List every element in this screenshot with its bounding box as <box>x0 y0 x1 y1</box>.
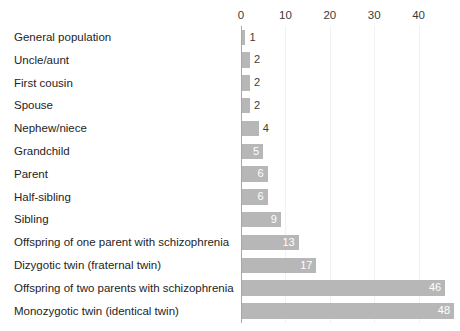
category-label: Half-sibling <box>14 186 71 209</box>
bar-container: 2 <box>241 52 250 68</box>
bar-row: Offspring of two parents with schizophre… <box>0 277 460 300</box>
bar-row: Nephew/niece4 <box>0 117 460 140</box>
x-tick-label-30: 30 <box>368 8 381 22</box>
x-tick-label-0: 0 <box>238 8 244 22</box>
bar-value-label: 9 <box>271 212 277 228</box>
bar <box>241 280 445 296</box>
bar-container: 5 <box>241 144 263 160</box>
bar-container: 6 <box>241 189 268 205</box>
category-label: Spouse <box>14 94 53 117</box>
bar-row: Sibling9 <box>0 208 460 231</box>
axis-line-zero <box>241 26 242 323</box>
bar-value-label: 6 <box>258 166 264 182</box>
category-label: Offspring of one parent with schizophren… <box>14 231 229 254</box>
bar <box>241 166 268 182</box>
category-label: Monozygotic twin (identical twin) <box>14 300 179 323</box>
bar-row: Half-sibling6 <box>0 186 460 209</box>
bar-value-label: 48 <box>438 303 450 319</box>
bar-chart: 010203040 General population1Uncle/aunt2… <box>0 0 460 331</box>
bar <box>241 52 250 68</box>
bar-value-label: 6 <box>258 189 264 205</box>
bar-value-label: 4 <box>259 121 269 137</box>
bar <box>241 189 268 205</box>
bar-container: 17 <box>241 258 316 274</box>
x-tick-label-40: 40 <box>412 8 425 22</box>
bar-row: Dizygotic twin (fraternal twin)17 <box>0 254 460 277</box>
bar-rows: General population1Uncle/aunt2First cous… <box>0 26 460 323</box>
bar-container: 4 <box>241 121 259 137</box>
bar-row: Grandchild5 <box>0 140 460 163</box>
bar-row: Offspring of one parent with schizophren… <box>0 231 460 254</box>
bar <box>241 303 454 319</box>
bar-row: Parent6 <box>0 163 460 186</box>
bar-container: 6 <box>241 166 268 182</box>
bar-value-label: 1 <box>245 30 255 46</box>
bar-value-label: 2 <box>250 98 260 114</box>
bar-row: First cousin2 <box>0 72 460 95</box>
category-label: Offspring of two parents with schizophre… <box>14 277 234 300</box>
category-label: General population <box>14 26 111 49</box>
bar-value-label: 13 <box>282 235 294 251</box>
bar-container: 13 <box>241 235 299 251</box>
bar-value-label: 2 <box>250 52 260 68</box>
bar-value-label: 17 <box>300 258 312 274</box>
bar-row: Spouse2 <box>0 94 460 117</box>
x-axis-tick-labels: 010203040 <box>0 8 460 24</box>
bar-row: Monozygotic twin (identical twin)48 <box>0 300 460 323</box>
bar-row: Uncle/aunt2 <box>0 49 460 72</box>
x-tick-label-20: 20 <box>323 8 336 22</box>
x-tick-label-10: 10 <box>279 8 292 22</box>
category-label: Sibling <box>14 208 49 231</box>
bar <box>241 98 250 114</box>
bar-container: 2 <box>241 98 250 114</box>
category-label: Nephew/niece <box>14 117 87 140</box>
category-label: Grandchild <box>14 140 70 163</box>
bar-container: 48 <box>241 303 454 319</box>
bar-container: 46 <box>241 280 445 296</box>
category-label: Parent <box>14 163 48 186</box>
bar-value-label: 5 <box>253 144 259 160</box>
bar <box>241 75 250 91</box>
category-label: Uncle/aunt <box>14 49 69 72</box>
bar <box>241 121 259 137</box>
category-label: First cousin <box>14 72 73 95</box>
category-label: Dizygotic twin (fraternal twin) <box>14 254 161 277</box>
bar-container: 9 <box>241 212 281 228</box>
bar-row: General population1 <box>0 26 460 49</box>
bar-value-label: 46 <box>429 280 441 296</box>
bar-value-label: 2 <box>250 75 260 91</box>
bar-container: 2 <box>241 75 250 91</box>
